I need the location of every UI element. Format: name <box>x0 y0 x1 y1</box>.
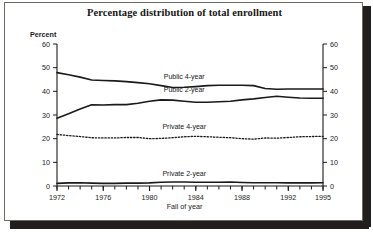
series-line-private-2-year <box>57 182 323 183</box>
series-inline-labels: Public 4-yearPublic 2-yearPrivate 4-year… <box>162 73 206 178</box>
figure-page: Percentage distribution of total enrollm… <box>0 0 373 234</box>
svg-text:60: 60 <box>42 40 50 49</box>
x-axis-title: Fall of year <box>5 202 364 211</box>
svg-text:40: 40 <box>330 87 338 96</box>
svg-text:1976: 1976 <box>95 193 111 202</box>
svg-text:50: 50 <box>330 63 338 72</box>
svg-text:40: 40 <box>42 87 50 96</box>
svg-text:0: 0 <box>330 182 334 191</box>
figure-frame: Percentage distribution of total enrollm… <box>4 2 363 221</box>
svg-text:1972: 1972 <box>49 193 65 202</box>
svg-text:30: 30 <box>330 111 338 120</box>
svg-text:0: 0 <box>46 182 50 191</box>
svg-text:1995: 1995 <box>315 193 331 202</box>
series-line-private-4-year <box>57 134 323 139</box>
series-line-public-2-year <box>57 96 323 118</box>
svg-text:20: 20 <box>330 134 338 143</box>
figure-shadow-right <box>363 6 371 227</box>
svg-text:20: 20 <box>42 134 50 143</box>
svg-text:10: 10 <box>330 158 338 167</box>
line-chart-svg: 0010102020303040405050606019721976198019… <box>5 3 364 222</box>
plot-area: 0010102020303040405050606019721976198019… <box>5 3 364 222</box>
svg-text:30: 30 <box>42 111 50 120</box>
svg-text:50: 50 <box>42 63 50 72</box>
svg-text:10: 10 <box>42 158 50 167</box>
svg-text:1980: 1980 <box>142 193 158 202</box>
svg-text:1988: 1988 <box>234 193 250 202</box>
chart-axes: 0010102020303040405050606019721976198019… <box>42 40 338 202</box>
series-label-public-4-year: Public 4-year <box>164 73 206 81</box>
series-label-private-2-year: Private 2-year <box>162 170 206 178</box>
figure-shadow-bottom <box>10 221 369 229</box>
svg-text:1992: 1992 <box>280 193 296 202</box>
svg-text:1984: 1984 <box>188 193 204 202</box>
series-label-private-4-year: Private 4-year <box>162 123 206 131</box>
series-label-public-2-year: Public 2-year <box>164 86 206 94</box>
svg-text:60: 60 <box>330 40 338 49</box>
